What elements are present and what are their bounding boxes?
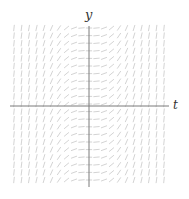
slope-segment: [117, 63, 121, 68]
slope-segment: [101, 57, 107, 59]
slope-segment: [164, 139, 165, 145]
slope-segment: [133, 71, 135, 77]
slope-segment: [141, 48, 142, 54]
slope-segment: [133, 48, 135, 54]
slope-segment: [57, 177, 61, 182]
slope-segment: [125, 124, 128, 130]
slope-segment: [156, 48, 157, 54]
slope-segment: [141, 116, 142, 122]
slope-segment: [64, 117, 69, 121]
slope-segment: [78, 142, 84, 143]
slope-segment: [28, 55, 29, 61]
slope-segment: [141, 162, 142, 168]
slope-segment: [117, 41, 121, 46]
slope-segment: [101, 126, 107, 128]
slope-segment: [36, 93, 37, 99]
slope-segment: [133, 93, 135, 99]
slope-field-plot: [0, 0, 189, 199]
slope-segment: [21, 139, 22, 145]
slope-segment: [21, 70, 22, 76]
slope-segment: [71, 42, 77, 44]
slope-segment: [109, 140, 114, 144]
slope-segment: [148, 124, 149, 130]
slope-segment: [125, 94, 128, 100]
slope-segment: [93, 119, 99, 120]
slope-segment: [125, 147, 128, 153]
slope-segment: [101, 111, 107, 113]
slope-segment: [101, 179, 107, 181]
slope-segment: [36, 162, 37, 168]
slope-segment: [93, 89, 99, 90]
slope-segment: [141, 86, 142, 92]
slope-segment: [109, 56, 114, 60]
slope-segment: [156, 70, 157, 76]
slope-segment: [36, 139, 37, 145]
y-axis-label: y: [85, 8, 92, 21]
slope-segment: [64, 132, 69, 136]
slope-segment: [164, 25, 165, 31]
slope-segment: [141, 40, 142, 46]
slope-segment: [57, 41, 61, 46]
slope-segment: [133, 147, 135, 153]
slope-segment: [50, 124, 53, 130]
slope-segment: [101, 27, 107, 29]
slope-segment: [117, 147, 121, 152]
slope-segment: [141, 177, 142, 183]
slope-segment: [50, 25, 53, 31]
slope-segment: [101, 88, 107, 90]
slope-segment: [78, 58, 84, 59]
slope-segment: [14, 169, 15, 175]
slope-segment: [64, 64, 69, 68]
slope-segment: [101, 149, 107, 151]
slope-segment: [57, 109, 61, 114]
slope-segment: [50, 116, 53, 122]
slope-segment: [156, 116, 157, 122]
slope-segment: [28, 93, 29, 99]
slope-segment: [156, 131, 157, 137]
slope-segment: [101, 164, 107, 166]
slope-segment: [78, 127, 84, 128]
slope-segment: [71, 80, 77, 82]
slope-segment: [36, 63, 37, 69]
slope-segment: [93, 35, 99, 36]
slope-segment: [28, 86, 29, 92]
slope-segment: [148, 116, 149, 122]
slope-segment: [78, 96, 84, 97]
slope-segment: [50, 162, 53, 168]
slope-segment: [57, 63, 61, 68]
slope-segment: [93, 142, 99, 143]
slope-segment: [36, 124, 37, 130]
slope-segment: [28, 40, 29, 46]
slope-segment: [133, 154, 135, 160]
slope-segment: [50, 170, 53, 176]
slope-segment: [156, 32, 157, 38]
slope-segment: [14, 78, 15, 84]
slope-segment: [125, 33, 128, 39]
slope-segment: [14, 139, 15, 145]
slope-segment: [117, 33, 121, 38]
slope-segment: [101, 156, 107, 158]
slope-segment: [14, 40, 15, 46]
slope-segment: [101, 133, 107, 135]
slope-segment: [164, 70, 165, 76]
slope-segment: [50, 63, 53, 69]
slope-segment: [156, 162, 157, 168]
slope-segment: [109, 87, 114, 91]
slope-segment: [14, 108, 15, 114]
slope-segment: [50, 48, 53, 54]
slope-segment: [93, 58, 99, 59]
slope-segment: [164, 108, 165, 114]
slope-segment: [50, 154, 53, 160]
slope-segment: [156, 40, 157, 46]
slope-segment: [78, 28, 84, 29]
slope-segment: [78, 73, 84, 74]
slope-segment: [133, 177, 135, 183]
slope-segment: [64, 102, 69, 106]
slope-segment: [64, 163, 69, 167]
slope-segment: [21, 169, 22, 175]
slope-segment: [57, 71, 61, 76]
slope-segment: [117, 132, 121, 137]
slope-segment: [101, 103, 107, 105]
slope-segment: [148, 71, 149, 77]
slope-segment: [93, 43, 99, 44]
